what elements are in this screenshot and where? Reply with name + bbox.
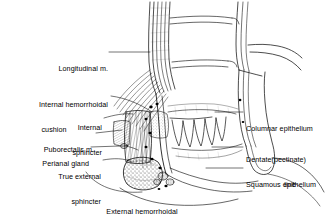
label-line: Columnar epithelium xyxy=(246,125,334,133)
anoderm-transition xyxy=(172,144,242,160)
label-line: Dentate(pectinate) xyxy=(246,156,334,164)
rectal-wall-left xyxy=(149,2,175,94)
anal-columns xyxy=(168,104,238,147)
anatomy-figure: Longitudinal m. Internal hemorrhoidal cu… xyxy=(0,0,334,215)
peritoneal-reflections xyxy=(170,16,239,68)
label-external-hemorrhoidal-cushion: External hemorrhoidal cushion xyxy=(88,191,196,215)
leader-lines-right xyxy=(206,112,243,168)
label-line: Squamous epithelium xyxy=(246,181,334,189)
rectal-wall-right xyxy=(236,2,302,76)
internal-hemorrhoidal-cushion xyxy=(149,111,168,138)
label-line: Longitudinal m. xyxy=(8,65,108,73)
label-squamous-epithelium: Squamous epithelium xyxy=(246,164,334,206)
label-line: True external xyxy=(12,173,101,181)
puborectalis-muscle xyxy=(113,121,130,147)
label-line: External hemorrhoidal xyxy=(88,208,196,215)
